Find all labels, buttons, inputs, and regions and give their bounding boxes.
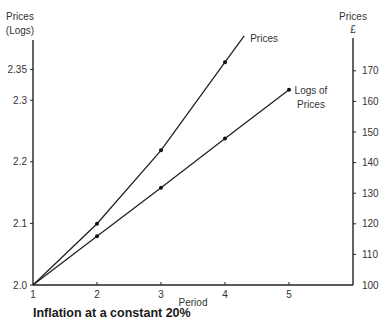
- prices-point: [95, 222, 99, 226]
- right-tick-label: 150: [362, 127, 379, 138]
- left-axis-title-line1: Prices: [6, 11, 34, 22]
- x-tick-label: 1: [30, 289, 36, 300]
- left-axis-title-line2: (Logs): [6, 25, 34, 36]
- right-tick-label: 130: [362, 188, 379, 199]
- prices-point: [223, 60, 227, 64]
- left-tick-label: 2.35: [8, 64, 28, 75]
- right-axis-ticks: 100110120130140150160170: [353, 65, 379, 290]
- chart-caption: Inflation at a constant 20%: [33, 306, 191, 320]
- right-tick-label: 100: [362, 280, 379, 291]
- logs-point: [159, 186, 163, 190]
- inflation-chart: Prices (Logs) Prices £ 2.02.12.22.32.35 …: [0, 0, 386, 333]
- left-tick-label: 2.3: [13, 95, 27, 106]
- right-tick-label: 110: [362, 249, 378, 260]
- right-tick-label: 170: [362, 65, 379, 76]
- logs-series-label: Prices: [297, 99, 325, 110]
- left-tick-label: 2.0: [13, 280, 27, 291]
- prices-point: [159, 148, 163, 152]
- logs-series-label: Logs of: [295, 85, 328, 96]
- prices-line: [33, 36, 244, 285]
- right-axis-title-line1: Prices: [339, 11, 367, 22]
- right-axis-title-line2: £: [350, 24, 356, 35]
- x-tick-label: 4: [222, 289, 228, 300]
- logs-point: [223, 136, 227, 140]
- x-tick-label: 3: [158, 289, 164, 300]
- logs-point: [287, 88, 291, 92]
- x-tick-label: 2: [94, 289, 100, 300]
- right-tick-label: 140: [362, 157, 379, 168]
- prices-series-label: Prices: [250, 33, 278, 44]
- left-axis-ticks: 2.02.12.22.32.35: [8, 64, 33, 291]
- x-tick-label: 5: [286, 289, 292, 300]
- right-tick-label: 120: [362, 218, 379, 229]
- series-layer: PricesLogs ofPrices: [33, 33, 328, 285]
- logs-point: [95, 234, 99, 238]
- left-tick-label: 2.2: [13, 156, 27, 167]
- left-tick-label: 2.1: [13, 218, 27, 229]
- right-tick-label: 160: [362, 96, 379, 107]
